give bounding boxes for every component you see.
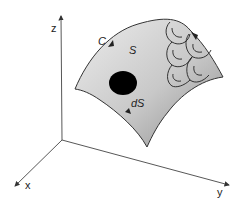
z-axis (61, 16, 62, 140)
x-axis-label: x (25, 179, 31, 191)
surface-label: S (129, 44, 137, 56)
x-axis (15, 140, 62, 186)
z-axis-label: z (51, 22, 57, 34)
stokes-diagram: z x y C S dS (0, 0, 240, 207)
surface-element-ds (109, 71, 137, 95)
element-label: dS (131, 97, 145, 109)
curve-label: C (98, 35, 106, 47)
y-axis (62, 140, 229, 185)
y-axis-label: y (217, 186, 223, 198)
